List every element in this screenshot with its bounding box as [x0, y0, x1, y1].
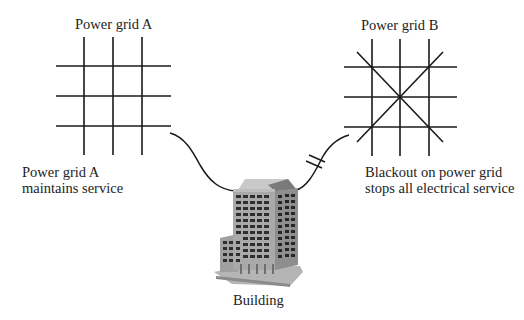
cable-grid-a [170, 133, 236, 191]
power-grid-b-icon [344, 39, 457, 156]
grid-b-title: Power grid B [361, 17, 438, 33]
grid-b-caption-line1: Blackout on power grid [365, 164, 502, 180]
grid-a-title: Power grid A [75, 16, 152, 32]
diagram-canvas [0, 0, 524, 320]
building-icon [214, 179, 303, 287]
cable-grid-b [296, 135, 349, 190]
power-grid-a-icon [56, 37, 171, 155]
building-label: Building [233, 292, 284, 308]
grid-b-caption-line2: stops all electrical service [365, 180, 514, 196]
grid-a-caption-line1: Power grid A [22, 164, 99, 180]
grid-a-caption-line2: maintains service [22, 180, 123, 196]
